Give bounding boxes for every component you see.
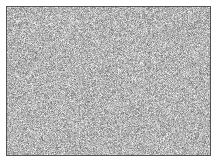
noise-texture-canvas [7, 7, 210, 155]
figure-root [0, 0, 220, 165]
noise-image-panel [6, 6, 211, 156]
figure-caption [6, 158, 211, 165]
